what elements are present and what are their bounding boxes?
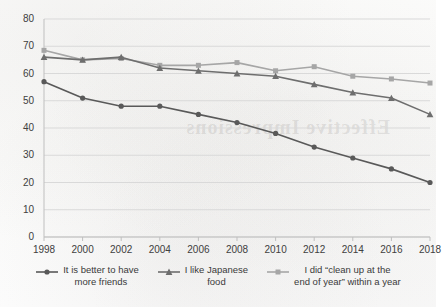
legend-marker-circle-icon: [35, 267, 59, 277]
data-point-2-2010: [273, 68, 278, 73]
x-axis-label-2014: 2014: [333, 244, 373, 255]
data-point-0-1998: [41, 79, 46, 84]
data-point-0-2012: [312, 144, 317, 149]
x-axis-label-2010: 2010: [256, 244, 296, 255]
series-line-0: [44, 82, 430, 183]
legend-label-2: I did “clean up at the end of year” with…: [294, 264, 401, 288]
data-point-2-2018: [428, 81, 433, 86]
y-axis-label-80: 80: [8, 14, 34, 24]
legend-point-0: [45, 269, 50, 274]
legend-item-1[interactable]: I like Japanese food: [157, 264, 248, 288]
y-axis-label-40: 40: [8, 123, 34, 133]
series-line-2: [44, 50, 430, 83]
x-axis-label-2008: 2008: [217, 244, 257, 255]
x-axis-label-2018: 2018: [410, 244, 446, 255]
x-axis-label-2004: 2004: [140, 244, 180, 255]
legend-marker-triangle-icon: [157, 267, 181, 277]
data-point-0-2006: [196, 112, 201, 117]
data-point-2-2012: [312, 64, 317, 69]
legend-point-2: [276, 270, 281, 275]
data-point-0-2000: [80, 95, 85, 100]
x-axis-label-2002: 2002: [101, 244, 141, 255]
x-axis-label-2006: 2006: [178, 244, 218, 255]
data-point-0-2004: [157, 104, 162, 109]
legend-item-2[interactable]: I did “clean up at the end of year” with…: [266, 264, 401, 288]
y-axis-label-70: 70: [8, 41, 34, 51]
legend-label-1: I like Japanese food: [185, 264, 248, 288]
data-point-0-2010: [273, 131, 278, 136]
y-axis-label-20: 20: [8, 178, 34, 188]
x-axis-label-2000: 2000: [63, 244, 103, 255]
data-point-0-2014: [350, 155, 355, 160]
x-axis-label-2016: 2016: [371, 244, 411, 255]
data-point-2-2006: [196, 63, 201, 68]
y-axis-label-0: 0: [8, 232, 34, 242]
y-axis-label-30: 30: [8, 150, 34, 160]
data-point-0-2008: [234, 120, 239, 125]
y-axis-label-10: 10: [8, 205, 34, 215]
y-axis-label-60: 60: [8, 69, 34, 79]
legend-item-0[interactable]: It is better to have more friends: [35, 264, 139, 288]
gridlines: [44, 19, 430, 237]
legend-marker-square-icon: [266, 267, 290, 277]
data-point-2-2016: [389, 76, 394, 81]
chart-legend: It is better to have more friendsI like …: [0, 264, 436, 288]
x-axis-label-2012: 2012: [294, 244, 334, 255]
data-point-2-2008: [235, 60, 240, 65]
legend-label-0: It is better to have more friends: [63, 264, 139, 288]
data-point-0-2002: [119, 104, 124, 109]
data-point-2-1998: [42, 48, 47, 53]
series-line-1: [44, 57, 430, 114]
data-point-2-2014: [350, 74, 355, 79]
data-point-0-2018: [427, 180, 432, 185]
x-axis-label-1998: 1998: [24, 244, 64, 255]
y-axis-label-50: 50: [8, 96, 34, 106]
axes: [44, 19, 430, 241]
series-2: [42, 48, 433, 86]
data-point-0-2016: [389, 166, 394, 171]
